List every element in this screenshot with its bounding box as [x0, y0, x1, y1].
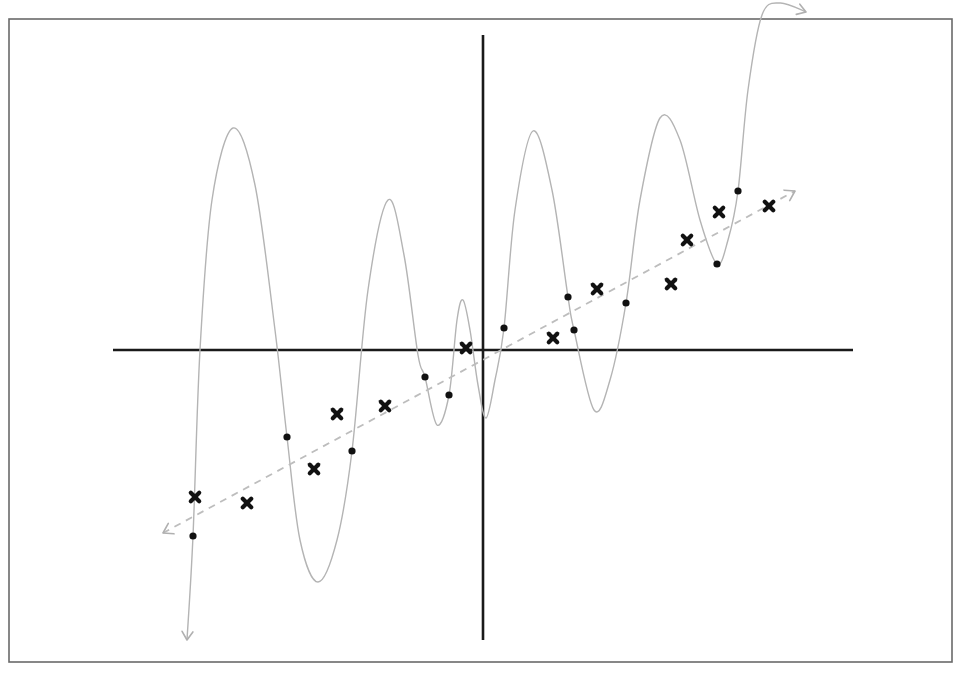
training-point [713, 260, 720, 267]
test-point-cross-icon [593, 285, 601, 293]
training-point [421, 373, 428, 380]
training-point [734, 187, 741, 194]
training-point [283, 433, 290, 440]
training-point [445, 391, 452, 398]
training-point [564, 293, 571, 300]
training-point [570, 326, 577, 333]
test-point-cross-icon [333, 410, 341, 418]
training-point [348, 447, 355, 454]
chart-frame [9, 19, 952, 662]
test-point-cross-icon [462, 344, 470, 352]
test-point-cross-icon [667, 280, 675, 288]
training-point [500, 324, 507, 331]
test-point-cross-icon [381, 402, 389, 410]
test-point-cross-icon [549, 334, 557, 342]
test-point-cross-icon [191, 493, 199, 501]
test-point-cross-icon [243, 499, 251, 507]
test-point-cross-icon [715, 208, 723, 216]
test-point-cross-icon [765, 202, 773, 210]
overfitting-chart [0, 0, 961, 673]
training-point [622, 299, 629, 306]
test-point-cross-icon [310, 465, 318, 473]
training-point [189, 532, 196, 539]
test-point-cross-icon [683, 236, 691, 244]
